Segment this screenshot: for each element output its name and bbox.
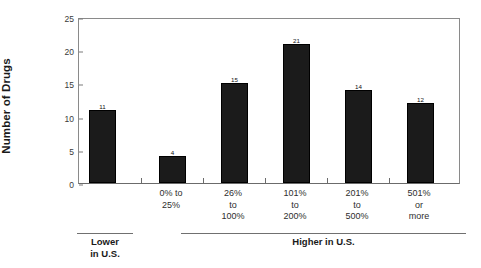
group-bracket-lower (77, 233, 133, 234)
y-tick-mark-15 (79, 85, 83, 86)
bar-value-label: 15 (231, 76, 238, 83)
bar-value-label: 12 (417, 96, 424, 103)
y-tick-mark-10 (79, 118, 83, 119)
x-category-line-2: to (203, 200, 263, 212)
y-tick-mark-0 (79, 185, 83, 186)
x-category-line-3: 100% (203, 211, 263, 223)
x-category-line-2: or (389, 200, 449, 212)
bar-lower-in-us: 11 (89, 110, 116, 183)
y-tick-mark-25 (79, 19, 83, 20)
y-tick-mark-20 (79, 52, 83, 53)
y-tick-label-5: 5 (69, 147, 74, 157)
y-tick-label-15: 15 (65, 80, 74, 90)
y-tick-label-20: 20 (65, 47, 74, 57)
bar-0-to-25: 4 (159, 156, 186, 183)
plot-area: 0 5 10 15 20 25 11 4 15 21 14 (78, 18, 460, 184)
x-category-line-1: 501% (389, 188, 449, 200)
bar-26-to-100: 15 (221, 83, 248, 183)
x-category-line-2: to (327, 200, 387, 212)
bar-value-label: 11 (99, 103, 105, 110)
x-category-line-1: 201% (327, 188, 387, 200)
x-category-label-201-to-500: 201% to 500% (327, 188, 387, 223)
x-category-line-1: 26% (203, 188, 263, 200)
bar-value-label: 4 (171, 149, 174, 156)
group-bracket-higher (181, 233, 466, 234)
x-category-label-501-or-more: 501% or more (389, 188, 449, 223)
x-category-label-26-to-100: 26% to 100% (203, 188, 263, 223)
x-category-line-2: to (265, 200, 325, 212)
y-tick-label-0: 0 (69, 180, 74, 190)
bar-value-label: 21 (293, 37, 300, 44)
bar-201-to-500: 14 (345, 90, 372, 183)
x-category-label-0-to-25: 0% to 25% (141, 188, 201, 211)
y-tick-mark-5 (79, 151, 83, 152)
x-category-line-3: 500% (327, 211, 387, 223)
x-category-line-2: 25% (141, 200, 201, 212)
bar-value-label: 14 (355, 83, 362, 90)
y-axis-title: Number of Drugs (0, 36, 22, 176)
x-tick-mark-5 (389, 178, 390, 183)
x-tick-mark-1 (141, 178, 142, 183)
group-label-line-2: in U.S. (75, 248, 135, 260)
y-tick-label-25: 25 (65, 14, 74, 24)
bar-chart-figure: Number of Drugs 0 5 10 15 20 25 11 4 15 (0, 0, 481, 268)
group-label-line-1: Higher in U.S. (181, 236, 466, 248)
group-label-lower: Lower in U.S. (75, 236, 135, 259)
x-tick-mark-4 (327, 178, 328, 183)
x-tick-mark-2 (203, 178, 204, 183)
x-category-line-1: 101% (265, 188, 325, 200)
bar-501-or-more: 12 (407, 103, 434, 183)
x-category-line-3: 200% (265, 211, 325, 223)
y-tick-label-10: 10 (65, 114, 74, 124)
bar-101-to-200: 21 (283, 44, 310, 183)
group-label-higher: Higher in U.S. (181, 236, 466, 248)
x-category-line-1: 0% to (141, 188, 201, 200)
x-category-label-101-to-200: 101% to 200% (265, 188, 325, 223)
x-tick-mark-3 (265, 178, 266, 183)
x-category-line-3: more (389, 211, 449, 223)
group-label-line-1: Lower (75, 236, 135, 248)
